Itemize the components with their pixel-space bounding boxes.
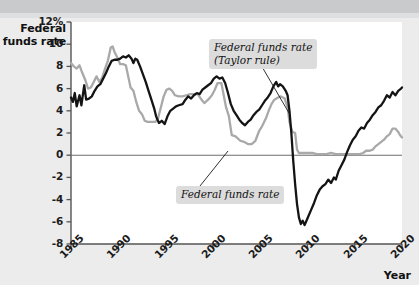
figure-root: Federal funds rate 12%1086420-2-4-6-8 19… <box>0 0 419 285</box>
y-tick-label: 2 <box>0 126 63 138</box>
leader-line-federal-funds-rate <box>200 151 228 186</box>
y-tick-label: -8 <box>0 237 63 249</box>
y-tick-label: -4 <box>0 193 63 205</box>
x-axis-title: Year <box>384 269 411 282</box>
y-tick-label: 6 <box>0 82 63 94</box>
y-tick-label: 0 <box>0 148 63 160</box>
y-tick-label: 8 <box>0 59 63 71</box>
y-tick-label: 12% <box>0 15 63 27</box>
annotation-federal-funds-rate: Federal funds rate <box>176 186 284 204</box>
y-tick-label: -2 <box>0 170 63 182</box>
y-tick-label: 4 <box>0 104 63 116</box>
y-tick-label: 10 <box>0 37 63 49</box>
annotation-taylor-rule: Federal funds rate (Taylor rule) <box>209 39 317 69</box>
y-tick-label: -6 <box>0 215 63 227</box>
